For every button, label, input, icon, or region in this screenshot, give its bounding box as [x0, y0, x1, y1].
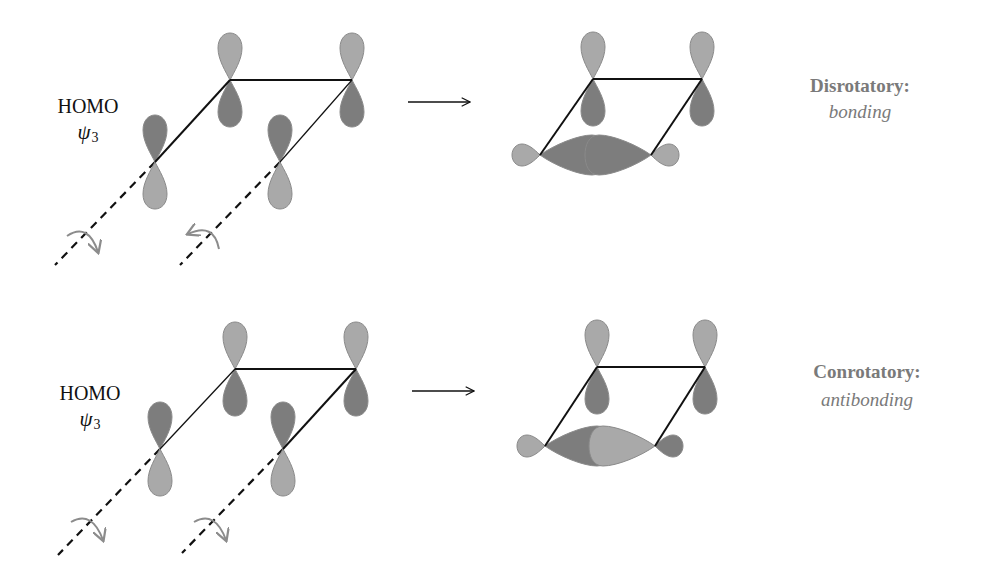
- psi-symbol: ψ: [79, 407, 92, 431]
- mode-label-conrotatory: Conrotatory:: [787, 362, 947, 381]
- reactant-diene-top: [55, 33, 364, 265]
- wavefunction-label-bottom: ψ3: [45, 409, 135, 432]
- mode-label-disrotatory: Disrotatory:: [780, 76, 940, 95]
- interaction-label-antibonding: antibonding: [787, 390, 947, 409]
- rotation-axis-left: [58, 449, 160, 555]
- psi-symbol: ψ: [77, 120, 90, 144]
- rotation-axis-right: [180, 162, 280, 265]
- rotation-arrow-clockwise-icon: [194, 519, 226, 540]
- psi-subscript: 3: [92, 130, 99, 145]
- psi-subscript: 3: [94, 417, 101, 432]
- rotation-arrow-clockwise-icon: [67, 232, 98, 252]
- rotation-arrow-counterclockwise-icon: [188, 230, 219, 249]
- product-cyclobutene-top: [512, 32, 714, 175]
- orbital-label-top: HOMO: [43, 96, 133, 116]
- product-cyclobutene-bottom: [517, 320, 717, 466]
- rotation-arrow-clockwise-icon: [71, 519, 103, 540]
- rotation-axis-left: [55, 162, 155, 265]
- orbital-label-bottom: HOMO: [45, 383, 135, 403]
- reactant-diene-bottom: [58, 322, 368, 555]
- wavefunction-label-top: ψ3: [43, 122, 133, 145]
- rotation-axis-right: [182, 449, 283, 553]
- interaction-label-bonding: bonding: [780, 102, 940, 121]
